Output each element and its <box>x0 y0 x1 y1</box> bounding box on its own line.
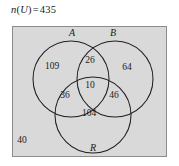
circle-set-b <box>77 41 153 117</box>
close-paren: ) <box>28 4 32 15</box>
circle-set-a <box>33 41 109 117</box>
region-count-b-and-r: 46 <box>109 90 119 100</box>
universe-total-value: 435 <box>40 4 56 15</box>
region-count-a-and-r: 36 <box>60 90 70 100</box>
venn-diagram-figure: n(U)=435 A B R 109 26 64 10 36 46 104 40 <box>0 0 179 166</box>
region-count-b-only: 64 <box>122 62 132 72</box>
region-count-r-only: 104 <box>82 108 96 118</box>
universe-symbol: U <box>20 4 28 15</box>
region-count-outside: 40 <box>17 135 27 145</box>
equals-sign: = <box>33 4 39 15</box>
region-count-a-only: 109 <box>45 61 59 71</box>
venn-circles-group <box>12 26 167 157</box>
universe-cardinality-label: n(U)=435 <box>11 4 56 15</box>
set-label-a: A <box>69 27 75 38</box>
region-count-a-and-b-and-r: 10 <box>85 80 95 90</box>
region-count-a-and-b: 26 <box>85 55 95 65</box>
set-label-r: R <box>90 142 96 153</box>
set-label-b: B <box>110 27 116 38</box>
